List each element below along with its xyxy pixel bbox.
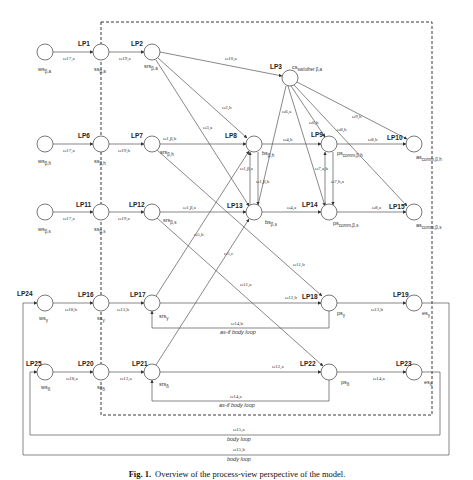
loop-label: body loop xyxy=(227,436,251,442)
node-label: wsβ,a xyxy=(37,66,52,74)
edge-label: ω18,a xyxy=(66,376,79,382)
edge-label: ω18,b xyxy=(65,307,78,313)
node-label: ascomm,β,s xyxy=(416,222,442,230)
node-as-s xyxy=(406,204,422,220)
edge-label: ω6,h xyxy=(309,120,319,126)
node-label: ssδ xyxy=(97,384,106,392)
edge-label: ω8,a xyxy=(372,205,382,211)
edge-label: ω1,β,h xyxy=(163,136,177,142)
lp-label: LP6 xyxy=(78,132,90,139)
lp-labels: LP1 LP2 LP3 LP6 LP7 LP8 LP9 LP10 LP11 LP… xyxy=(17,40,412,367)
node-srs-s xyxy=(144,204,160,220)
lp-label: LP10 xyxy=(387,134,403,141)
node-label: psδ xyxy=(341,379,350,387)
edge-label: ω17,a xyxy=(63,148,76,154)
edge-label: ω7,a,h xyxy=(315,166,329,172)
node-ps-h xyxy=(321,136,337,152)
edge-label: ω5,b xyxy=(194,232,204,238)
edge-label: ω14,b xyxy=(231,321,244,327)
edge-label: ω17,a xyxy=(63,56,76,62)
node-label: wsγ xyxy=(38,315,49,323)
node-label: bsβ,s xyxy=(265,219,278,227)
node-ss-h xyxy=(93,136,109,152)
lp-label: LP21 xyxy=(132,360,148,367)
edge-label: ω17,a xyxy=(63,216,76,222)
edge-label: ω19,h xyxy=(118,148,131,154)
lp-label: LP18 xyxy=(302,293,318,300)
lp-label: LP3 xyxy=(270,63,282,70)
edge-label: ω15,b xyxy=(233,447,246,453)
lp-label: LP13 xyxy=(227,202,243,209)
node-bs-s xyxy=(246,204,262,220)
node-labels: wsβ,a ssβ,a srsβ,a cssw/other β,a wsβ,h … xyxy=(37,63,442,392)
edge-label: ω12,b xyxy=(285,295,298,301)
edge-cs-as-s xyxy=(294,85,407,206)
edge-label: ω13,b xyxy=(117,307,130,313)
node-label: ssβ,h xyxy=(94,158,106,166)
edge-label: ω13,b xyxy=(371,307,384,313)
edge-label: ω11,b xyxy=(293,262,305,268)
node-ss-d xyxy=(93,364,109,380)
node-label: psγ xyxy=(337,310,346,318)
loop-label: as-if body loop xyxy=(220,329,256,335)
edge-label: ω14,a xyxy=(230,394,243,400)
edge-label: ω13,a xyxy=(120,376,133,382)
lp-label: LP22 xyxy=(300,360,316,367)
node-label: srsδ xyxy=(159,381,169,389)
node-ps-y xyxy=(321,295,337,311)
lp-label: LP1 xyxy=(78,40,90,47)
lp-label: LP9 xyxy=(311,131,323,138)
edge-label: ω6,a xyxy=(282,109,292,115)
node-label: srsβ,s xyxy=(163,217,177,225)
edge-srs-h-ps-y xyxy=(157,150,322,296)
edge-label: ω8,h xyxy=(368,137,378,143)
node-label: pscomm,β,h xyxy=(337,150,363,158)
node-label: cssw/other β,a xyxy=(292,64,323,72)
loop-label: body loop xyxy=(227,456,251,462)
edge-label: ω11,a xyxy=(240,282,252,288)
node-label: srsγ xyxy=(159,313,169,321)
lp-label: LP15 xyxy=(389,203,405,210)
lp-label: LP8 xyxy=(225,132,237,139)
lp-label: LP7 xyxy=(131,132,143,139)
edge-label: ω8,h xyxy=(337,127,347,133)
lp-label: LP2 xyxy=(131,40,143,47)
node-label: esδ xyxy=(424,379,433,387)
node-ps-d xyxy=(321,364,337,380)
node-srs-h xyxy=(144,136,160,152)
loop-label: as-if body loop xyxy=(219,402,255,408)
edge-label: ω19,a xyxy=(118,216,131,222)
node-label: ssβ,a xyxy=(94,66,106,74)
edge-label: ω3,a xyxy=(203,125,213,131)
edge-label: ω14,a xyxy=(373,376,386,382)
lp-label: LP14 xyxy=(302,201,318,208)
node-label: wsβ,s xyxy=(37,226,52,234)
node-label: srsβ,h xyxy=(160,149,174,157)
node-label: esγ xyxy=(422,310,431,318)
lp-label: LP17 xyxy=(130,291,146,298)
lp-label: LP23 xyxy=(396,360,412,367)
edge-srs-d-bs-s xyxy=(156,219,249,365)
lp-label: LP24 xyxy=(17,290,33,297)
node-label: srsβ,a xyxy=(144,63,158,71)
edge-labels: ω17,a ω19,a ω10,a ω2,h ω3,a ω6,a ω6,h ω8… xyxy=(63,56,386,462)
edge-label: ω1,β,a xyxy=(183,205,197,211)
edge-label: ω9,h xyxy=(352,114,362,120)
edge-label: ω15,a xyxy=(233,427,246,433)
lp-label: LP11 xyxy=(76,201,92,208)
edge-label: ω4,h xyxy=(283,137,293,143)
node-label: ssγ xyxy=(97,315,106,323)
node-ws-y xyxy=(37,295,53,311)
node-label: ssβ,s xyxy=(94,226,106,234)
edge-label: ω4,a xyxy=(287,205,297,211)
lp-label: LP25 xyxy=(26,360,42,367)
node-ss-s xyxy=(93,204,109,220)
node-as-h xyxy=(406,136,422,152)
edge-label: ω1,β,a xyxy=(240,166,254,172)
node-ws-s xyxy=(37,204,53,220)
process-view-diagram: LP1 LP2 LP3 LP6 LP7 LP8 LP9 LP10 LP11 LP… xyxy=(0,0,473,480)
node-ss-a xyxy=(93,44,109,60)
node-label: bsβ,h xyxy=(262,150,275,158)
edge-label: ω10,a xyxy=(225,56,238,62)
figure-caption: Fig. 1.Overview of the process-view pers… xyxy=(129,469,346,479)
